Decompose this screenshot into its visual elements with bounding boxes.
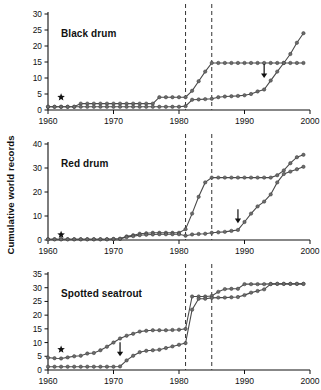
x-tick-label: 2000 [300, 116, 319, 126]
data-point [131, 234, 134, 237]
data-point [131, 354, 134, 357]
data-point [73, 355, 76, 358]
data-point [269, 282, 272, 285]
data-point [210, 61, 213, 64]
y-tick-label: 10 [33, 73, 43, 83]
data-point [73, 105, 76, 108]
data-point [217, 231, 220, 234]
data-point [125, 334, 128, 337]
data-point [217, 96, 220, 99]
data-point [184, 341, 187, 344]
x-tick-label: 2000 [300, 376, 319, 386]
data-point [230, 61, 233, 64]
y-tick-label: 15 [33, 324, 43, 334]
panel-black-drum: 05101520253019601970198019902000 [0, 0, 321, 130]
data-point [197, 195, 200, 198]
y-tick-label: 25 [33, 25, 43, 35]
data-point [59, 365, 62, 368]
data-point [92, 238, 95, 241]
data-point [230, 176, 233, 179]
data-point [262, 282, 265, 285]
data-point [73, 365, 76, 368]
data-point [66, 365, 69, 368]
data-point [112, 237, 115, 240]
data-point [210, 97, 213, 100]
data-point [112, 105, 115, 108]
data-point [86, 105, 89, 108]
data-point [177, 96, 180, 99]
data-point [92, 102, 95, 105]
data-point [276, 282, 279, 285]
data-point [86, 102, 89, 105]
data-point [302, 153, 305, 156]
data-point [92, 105, 95, 108]
y-tick-label: 20 [33, 310, 43, 320]
data-point [59, 238, 62, 241]
data-point [86, 365, 89, 368]
data-point [236, 176, 239, 179]
x-tick-label: 1970 [104, 376, 123, 386]
y-tick-label: 5 [37, 351, 42, 361]
y-tick-label: 5 [37, 89, 42, 99]
data-point [184, 228, 187, 231]
x-tick-label: 1970 [104, 116, 123, 126]
data-point [125, 359, 128, 362]
data-point [204, 232, 207, 235]
data-point [105, 102, 108, 105]
y-tick-label: 15 [33, 57, 43, 67]
data-point [269, 79, 272, 82]
data-point [79, 238, 82, 241]
data-point [223, 95, 226, 98]
data-point [171, 105, 174, 108]
data-point [262, 200, 265, 203]
data-point [171, 345, 174, 348]
plot-svg-spotted-seatrout: 0510152025303519601970198019902000 [0, 260, 321, 390]
data-point [262, 176, 265, 179]
y-tick-label: 30 [33, 163, 43, 173]
data-point [276, 174, 279, 177]
data-point [59, 357, 62, 360]
data-point [276, 70, 279, 73]
data-point [256, 61, 259, 64]
data-point [145, 105, 148, 108]
star-marker [57, 93, 65, 100]
data-point [138, 350, 141, 353]
data-point [302, 32, 305, 35]
x-tick-label: 1990 [235, 376, 254, 386]
y-tick-label: 35 [33, 269, 43, 279]
data-point [243, 282, 246, 285]
data-point [164, 105, 167, 108]
data-point [99, 105, 102, 108]
data-point [204, 70, 207, 73]
data-point [79, 105, 82, 108]
data-point [249, 61, 252, 64]
data-point [158, 233, 161, 236]
data-point [177, 105, 180, 108]
x-tick-label: 1960 [38, 116, 57, 126]
data-point [210, 231, 213, 234]
data-point [59, 105, 62, 108]
data-point [151, 233, 154, 236]
data-point [99, 102, 102, 105]
y-tick-label: 30 [33, 9, 43, 19]
data-point [249, 92, 252, 95]
data-point [46, 105, 49, 108]
data-point [158, 105, 161, 108]
data-point [289, 282, 292, 285]
data-point [164, 346, 167, 349]
figure-canvas: Cumulative world records 051015202530196… [0, 0, 321, 390]
data-point [289, 162, 292, 165]
plot-svg-red-drum: 01020304019601970198019902000 [0, 130, 321, 260]
data-point [138, 102, 141, 105]
y-tick-label: 20 [33, 187, 43, 197]
data-point [86, 238, 89, 241]
data-point [99, 349, 102, 352]
data-point [269, 61, 272, 64]
y-tick-label: 20 [33, 41, 43, 51]
data-point [53, 238, 56, 241]
data-point [171, 328, 174, 331]
data-point [118, 105, 121, 108]
y-tick-label: 25 [33, 296, 43, 306]
star-marker [57, 231, 65, 238]
data-point [131, 105, 134, 108]
